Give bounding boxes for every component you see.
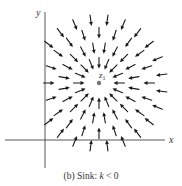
sink-point: z1 [97,70,106,85]
arrow-icon [66,38,72,47]
arrow-icon [128,76,139,80]
arrow-icon [112,88,122,92]
arrow-icon [97,28,101,39]
arrow-icon [104,59,108,69]
arrow-icon [89,59,93,69]
arrow-icon [135,50,144,56]
arrow-icon [54,50,63,56]
arrow-icon [144,81,155,85]
axes: x y [5,7,174,168]
arrow-icon [92,43,96,54]
arrow-icon [128,86,139,90]
arrow-icon [141,66,151,70]
arrow-icon [134,29,141,38]
arrow-icon [102,112,106,123]
figure-caption: (b) Sink: k < 0 [0,171,182,181]
arrow-icon [97,58,101,69]
arrow-icon [46,66,56,70]
arrow-icon [114,81,125,85]
arrow-icon [145,41,154,48]
arrow-icon [57,29,64,38]
arrow-icon [152,105,162,109]
arrow-icon [152,57,162,61]
arrow-icon [141,96,151,100]
arrow-icon [109,93,117,101]
arrow-icon [73,20,77,30]
arrow-icon [70,54,78,62]
arrow-icon [97,128,101,139]
inward-arrows [44,15,167,151]
arrow-icon [89,96,93,106]
arrow-icon [45,41,54,48]
arrow-icon [92,112,96,123]
arrow-icon [121,136,125,146]
arrow-icon [120,104,128,112]
arrow-icon [156,89,167,93]
arrow-icon [125,65,135,70]
arrow-icon [89,15,93,26]
arrow-icon [81,93,89,101]
arrow-icon [57,129,64,138]
arrow-icon [120,54,128,62]
arrow-icon [59,86,70,90]
arrow-icon [104,96,108,106]
arrow-icon [112,47,117,57]
arrow-icon [134,129,141,138]
arrow-icon [112,109,117,119]
x-axis-label: x [168,134,174,145]
arrow-icon [125,119,131,128]
caption-prefix: (b) Sink: [64,171,100,181]
arrow-icon [125,96,135,101]
arrow-icon [59,76,70,80]
arrow-icon [145,118,154,125]
arrow-icon [97,98,101,109]
caption-condition: < 0 [104,171,119,181]
arrow-icon [112,73,122,77]
y-axis-label: y [35,7,41,18]
arrow-icon [66,119,72,128]
arrow-icon [112,30,116,40]
arrow-icon [109,65,117,73]
arrow-icon [102,43,106,54]
arrow-icon [73,136,77,146]
arrow-icon [54,109,63,115]
arrow-icon [63,65,73,70]
arrow-icon [105,140,109,151]
arrow-icon [112,125,116,135]
arrow-icon [156,73,167,77]
arrow-icon [89,140,93,151]
arrow-icon [135,109,144,115]
arrow-icon [63,96,73,101]
arrow-icon [105,15,109,26]
arrow-icon [81,65,89,73]
arrow-icon [70,104,78,112]
sink-point-dot [97,81,101,85]
arrow-icon [81,109,86,119]
arrow-icon [125,38,131,47]
arrow-icon [121,20,125,30]
arrow-icon [46,96,56,100]
arrow-icon [81,47,86,57]
arrow-icon [75,88,85,92]
arrow-icon [75,73,85,77]
arrow-icon [74,81,85,85]
arrow-icon [45,118,54,125]
arrow-icon [82,125,86,135]
sink-point-label: z1 [98,70,106,81]
sink-vector-field-diagram: x y z1 [0,0,182,186]
arrow-icon [82,30,86,40]
